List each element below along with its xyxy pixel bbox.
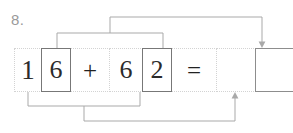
question-number: 8. (11, 12, 25, 27)
cell-digit-1[interactable]: 1 (14, 48, 42, 92)
cell-value: 1 (21, 57, 35, 84)
cell-digit-2[interactable]: 2 (142, 48, 172, 92)
cell-answer-box-1[interactable] (216, 48, 256, 92)
arrow-up-icon (232, 92, 239, 99)
cell-operator-equals[interactable]: = (171, 48, 217, 92)
cell-answer-box-2[interactable] (255, 48, 293, 92)
equation-strip: 1 6 + 6 2 = (14, 48, 293, 92)
worksheet-problem: 8. 1 6 + 6 (0, 0, 293, 133)
bottom-bracket-connector (28, 92, 238, 121)
cell-value: = (187, 58, 201, 83)
cell-digit-6a[interactable]: 6 (41, 48, 71, 92)
cell-value: 6 (50, 57, 63, 83)
cell-value: + (83, 58, 97, 83)
top-bracket-connector (57, 17, 265, 48)
cell-value: 2 (151, 57, 164, 83)
cell-value: 6 (120, 57, 133, 83)
cell-digit-6b[interactable]: 6 (109, 48, 143, 92)
cell-operator-plus[interactable]: + (70, 48, 110, 92)
